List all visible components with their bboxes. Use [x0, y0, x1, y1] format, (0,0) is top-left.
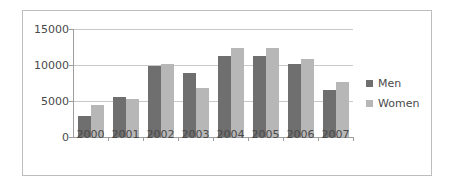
- y-axis-tick-label: 5000: [23, 95, 69, 106]
- bar-group: [248, 29, 283, 137]
- y-axis-tick-label: 0: [23, 132, 69, 143]
- x-axis-tick-label: 2001: [108, 129, 143, 140]
- x-axis-tick-mark: [353, 137, 354, 141]
- bar-women[interactable]: [266, 48, 279, 137]
- x-axis-tick-label: 2002: [143, 129, 178, 140]
- bar-men[interactable]: [218, 56, 231, 137]
- x-axis-tick-label: 2007: [318, 129, 353, 140]
- bar-group: [73, 29, 108, 137]
- x-axis-tick-label: 2000: [73, 129, 108, 140]
- chart-legend: Men Women: [366, 73, 419, 113]
- bar-women[interactable]: [231, 48, 244, 137]
- bar-group: [143, 29, 178, 137]
- bar-men[interactable]: [288, 64, 301, 137]
- bar-group: [108, 29, 143, 137]
- bar-group: [178, 29, 213, 137]
- legend-label-men: Men: [378, 78, 401, 89]
- bar-group: [318, 29, 353, 137]
- y-axis-tick-label: 15000: [23, 24, 69, 35]
- plot-area: [73, 29, 353, 137]
- x-axis-tick-label: 2004: [213, 129, 248, 140]
- legend-item-women[interactable]: Women: [366, 93, 419, 113]
- x-axis-tick-label: 2003: [178, 129, 213, 140]
- bar-men[interactable]: [148, 66, 161, 137]
- bar-women[interactable]: [161, 64, 174, 137]
- y-axis-tick-label: 10000: [23, 59, 69, 70]
- x-axis-tick-label: 2005: [248, 129, 283, 140]
- chart-container: 15000 10000 5000 0 200020012002200320042…: [22, 10, 432, 176]
- legend-swatch-women: [366, 100, 373, 107]
- x-axis-tick-label: 2006: [283, 129, 318, 140]
- bar-women[interactable]: [301, 59, 314, 137]
- legend-swatch-men: [366, 80, 373, 87]
- legend-label-women: Women: [378, 98, 419, 109]
- legend-item-men[interactable]: Men: [366, 73, 419, 93]
- y-axis-labels: 15000 10000 5000 0: [23, 29, 69, 137]
- bar-men[interactable]: [253, 56, 266, 137]
- bar-group: [283, 29, 318, 137]
- bar-group: [213, 29, 248, 137]
